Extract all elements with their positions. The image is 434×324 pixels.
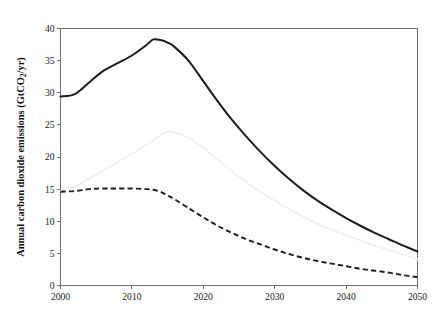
x-tick-label: 2020 [194,291,213,302]
y-tick-label: 35 [45,55,55,66]
y-tick-label: 30 [45,87,55,98]
y-tick-label: 10 [45,216,55,227]
y-tick-label: 20 [45,151,55,162]
x-tick-label: 2040 [337,291,356,302]
y-tick-label: 5 [50,248,55,259]
x-tick-label: 2000 [51,291,70,302]
chart-background [0,0,434,324]
y-tick-label: 40 [45,23,55,34]
x-tick-label: 2050 [408,291,427,302]
x-tick-label: 2030 [265,291,284,302]
x-tick-label: 2010 [122,291,141,302]
y-tick-label: 0 [50,280,55,291]
chart-figure: 0510152025303540 20002010202020302040205… [0,0,434,324]
y-tick-label: 25 [45,119,55,130]
y-tick-label: 15 [45,184,55,195]
emissions-line-chart: 0510152025303540 20002010202020302040205… [0,0,434,324]
